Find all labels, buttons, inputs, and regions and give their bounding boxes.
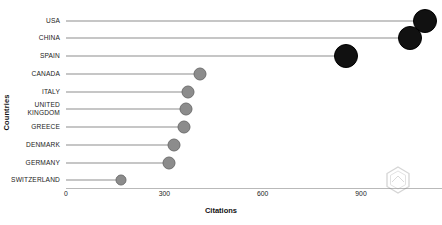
lollipop-stem [66,38,410,39]
data-point-marker [167,138,180,151]
data-point-marker [194,67,207,80]
x-axis-line [66,188,442,189]
x-axis-title-text: Citations [205,206,237,215]
x-tick-label: 900 [355,190,366,197]
x-tick-label: 0 [64,190,68,197]
lollipop-stem [66,56,346,57]
x-tick-label: 600 [257,190,268,197]
data-point-marker [179,103,192,116]
category-label: GERMANY [26,159,60,167]
category-label: ITALY [42,88,60,96]
lollipop-stem [66,127,184,128]
category-label: GREECE [31,123,60,131]
category-label: CANADA [32,70,60,78]
category-label: DENMARK [26,141,60,149]
lollipop-stem [66,109,186,110]
lollipop-stem [66,144,174,145]
lollipop-stem [66,162,169,163]
category-label: SWITZERLAND [11,176,60,184]
data-point-marker [398,26,422,50]
data-point-marker [181,85,194,98]
data-point-marker [334,44,358,68]
lollipop-stem [66,91,188,92]
category-label: SPAIN [40,52,60,60]
lollipop-stem [66,73,200,74]
lollipop-chart: USACHINASPAINCANADAITALYUNITED KINGDOMGR… [0,0,442,225]
data-point-marker [116,175,127,186]
x-axis-title: Citations [0,206,442,215]
lollipop-stem [66,180,121,181]
category-label: CHINA [39,34,60,42]
data-point-marker [162,156,175,169]
category-label: UNITED KINGDOM [27,101,60,117]
data-point-marker [178,121,191,134]
category-label: USA [46,17,60,25]
lollipop-stem [66,20,425,21]
x-tick-label: 300 [159,190,170,197]
